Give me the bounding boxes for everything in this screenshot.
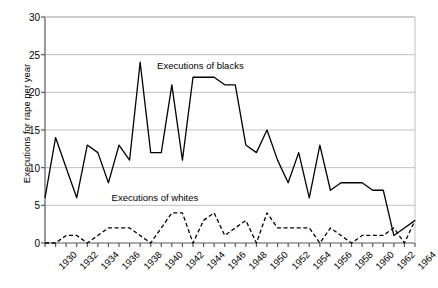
data-series	[45, 62, 415, 243]
series-line-blacks	[45, 62, 415, 235]
gridlines	[45, 17, 415, 205]
series-line-whites	[45, 213, 415, 243]
axis-tick-marks	[41, 17, 415, 247]
